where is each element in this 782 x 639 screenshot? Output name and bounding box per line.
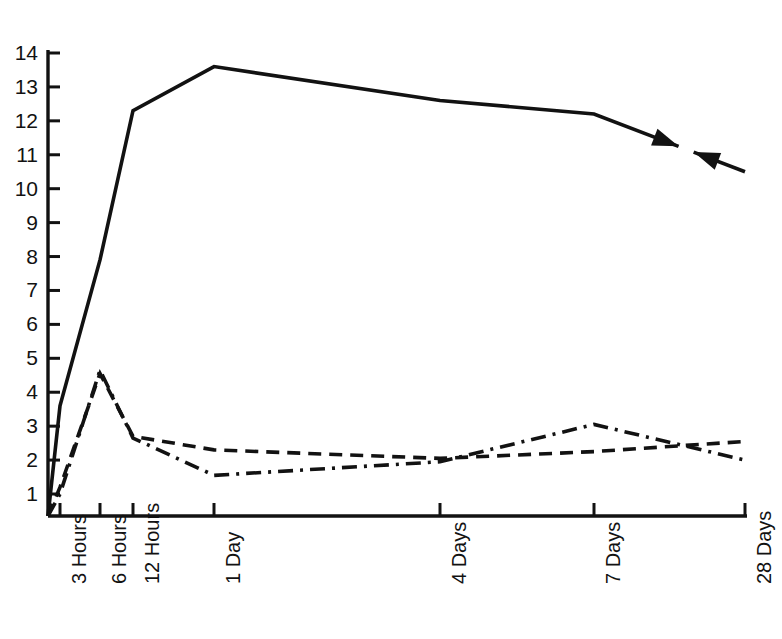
y-tick-label: 2	[4, 449, 38, 471]
y-tick-label: 10	[4, 178, 38, 200]
y-tick-label: 9	[4, 212, 38, 234]
series-group	[48, 67, 745, 516]
chart-container: 1234567891011121314 3 Hours6 Hours12 Hou…	[0, 0, 782, 639]
y-tick-label-text: 6	[4, 313, 38, 334]
series-line-dash-dot-series	[48, 370, 745, 516]
y-tick-label: 6	[4, 313, 38, 335]
x-tick-label-text: 12 Hours	[141, 503, 163, 584]
y-tick-label-text: 3	[4, 415, 38, 436]
x-tick-label: 6 Hours	[109, 514, 130, 584]
y-tick-label: 4	[4, 381, 38, 403]
series-line-solid-series	[48, 67, 679, 516]
axes-group	[48, 50, 747, 516]
annotations-group	[651, 129, 721, 170]
y-tick-label-text: 12	[4, 110, 38, 131]
y-tick-label: 3	[4, 415, 38, 437]
y-tick-label-text: 8	[4, 246, 38, 267]
y-tick-label-text: 4	[4, 381, 38, 402]
x-tick-label: 28 Days	[754, 511, 775, 584]
y-tick-label: 11	[4, 144, 38, 166]
y-tick-label-text: 10	[4, 178, 38, 199]
y-tick-label-text: 5	[4, 347, 38, 368]
x-tick-label: 12 Hours	[142, 503, 163, 584]
y-tick-label-text: 2	[4, 449, 38, 470]
y-tick-label: 8	[4, 246, 38, 268]
y-tick-label: 14	[4, 42, 38, 64]
y-tick-label: 7	[4, 279, 38, 301]
arrow-right-pointing	[651, 129, 678, 147]
x-tick-label: 7 Days	[603, 522, 624, 584]
y-tick-label-text: 7	[4, 279, 38, 300]
y-tick-label: 5	[4, 347, 38, 369]
arrow-left-pointing	[694, 152, 721, 170]
x-tick-label: 4 Days	[449, 522, 470, 584]
x-tick-label: 3 Hours	[69, 514, 90, 584]
y-tick-label-text: 14	[4, 42, 38, 63]
x-tick-label-text: 4 Days	[448, 522, 470, 584]
y-tick-label-text: 13	[4, 76, 38, 97]
x-tick-label-text: 3 Hours	[68, 514, 90, 584]
x-tick-label-text: 7 Days	[602, 522, 624, 584]
y-tick-label-text: 11	[4, 144, 38, 165]
y-tick-label: 13	[4, 76, 38, 98]
series-line-dashed-series	[48, 374, 745, 516]
y-tick-label-text: 1	[4, 483, 38, 504]
x-tick-label-text: 6 Hours	[108, 514, 130, 584]
y-tick-label: 12	[4, 110, 38, 132]
y-tick-label: 1	[4, 483, 38, 505]
x-tick-label-text: 1 Day	[222, 532, 244, 584]
x-tick-label: 1 Day	[223, 532, 244, 584]
y-tick-label-text: 9	[4, 212, 38, 233]
x-tick-label-text: 28 Days	[753, 511, 775, 584]
